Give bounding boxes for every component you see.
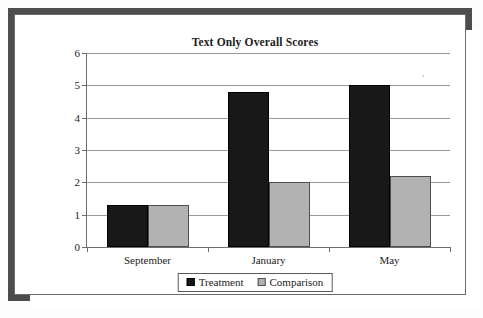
gridline xyxy=(87,150,450,151)
bar-treatment-september xyxy=(107,205,148,247)
chart-legend: TreatmentComparison xyxy=(178,273,333,292)
y-axis-tick-label: 6 xyxy=(75,47,81,59)
y-axis-tick-label: 5 xyxy=(75,79,81,91)
gridline xyxy=(87,53,450,54)
bar-comparison-september xyxy=(148,205,189,247)
x-axis-tick xyxy=(208,247,209,252)
x-axis-tick xyxy=(450,247,451,252)
y-axis-tick-label: 2 xyxy=(75,176,81,188)
scanned-page: Text Only Overall Scores 0123456 Septemb… xyxy=(0,0,483,318)
legend-item-treatment: Treatment xyxy=(187,276,244,288)
bar-comparison-may xyxy=(390,176,431,247)
y-axis-tick xyxy=(82,182,87,183)
figure-frame: Text Only Overall Scores 0123456 Septemb… xyxy=(8,8,472,301)
x-axis-label-may: May xyxy=(379,254,399,266)
y-axis-tick-label: 4 xyxy=(75,112,81,124)
legend-swatch-comparison-icon xyxy=(258,278,266,286)
y-axis-tick xyxy=(82,150,87,151)
x-axis-tick xyxy=(329,247,330,252)
bar-chart: Text Only Overall Scores 0123456 Septemb… xyxy=(30,30,480,309)
legend-label: Treatment xyxy=(199,276,244,288)
y-axis-tick xyxy=(82,215,87,216)
y-axis-tick xyxy=(82,118,87,119)
bar-treatment-may xyxy=(349,85,390,247)
legend-label: Comparison xyxy=(270,276,324,288)
legend-swatch-treatment-icon xyxy=(187,278,195,286)
x-axis-tick xyxy=(87,247,88,252)
y-axis-tick xyxy=(82,85,87,86)
bar-treatment-january xyxy=(228,92,269,247)
y-axis-tick-label: 3 xyxy=(75,144,81,156)
x-axis-line xyxy=(87,247,450,248)
y-axis-tick-label: 0 xyxy=(75,241,81,253)
legend-item-comparison: Comparison xyxy=(258,276,324,288)
chart-title: Text Only Overall Scores xyxy=(30,36,480,48)
x-axis-label-september: September xyxy=(124,254,171,266)
x-axis-label-january: January xyxy=(251,254,285,266)
y-axis-tick-label: 1 xyxy=(75,209,81,221)
bar-comparison-january xyxy=(269,182,310,247)
gridline xyxy=(87,118,450,119)
plot-area: 0123456 SeptemberJanuaryMay xyxy=(87,53,450,247)
y-axis-tick xyxy=(82,53,87,54)
gridline xyxy=(87,85,450,86)
